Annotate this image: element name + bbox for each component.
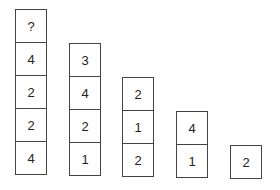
cell: 1: [122, 110, 154, 144]
column-2: 3 4 2 1: [69, 43, 101, 176]
cell: 1: [69, 142, 101, 176]
column-3: 2 1 2: [122, 77, 154, 177]
cell: 2: [69, 109, 101, 143]
cell: 2: [15, 108, 47, 142]
cell: 4: [15, 42, 47, 76]
cell: 2: [15, 75, 47, 109]
cell: 2: [122, 77, 154, 111]
cell: 1: [176, 144, 208, 178]
cell-unknown: ?: [15, 9, 47, 43]
column-5: 2: [230, 145, 262, 179]
cell: 4: [176, 111, 208, 145]
cell: 3: [69, 43, 101, 77]
column-4: 4 1: [176, 111, 208, 178]
cell: 4: [69, 76, 101, 110]
cell: 2: [230, 145, 262, 179]
cell: 4: [15, 141, 47, 175]
column-1: ? 4 2 2 4: [15, 9, 47, 175]
cell: 2: [122, 143, 154, 177]
